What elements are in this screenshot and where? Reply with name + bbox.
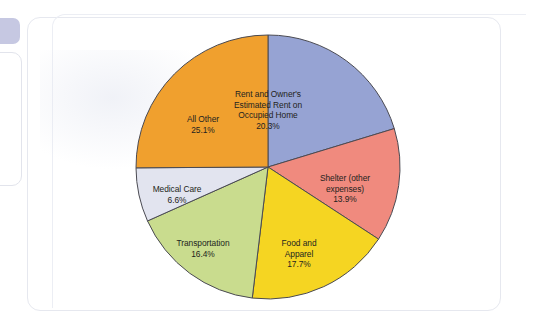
pie-chart-svg	[0, 0, 536, 332]
pie-chart: Rent and Owner's Estimated Rent on Occup…	[0, 0, 536, 332]
page-root: Rent and Owner's Estimated Rent on Occup…	[0, 0, 536, 332]
pie-slice-all-other	[136, 35, 268, 168]
